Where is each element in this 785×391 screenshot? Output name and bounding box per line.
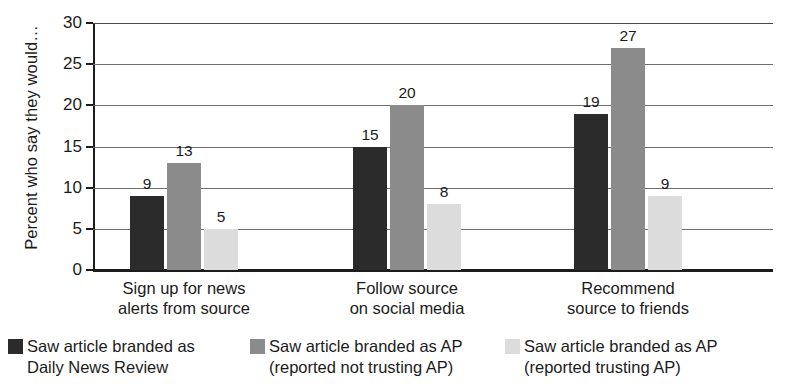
- y-axis-title: Percent who say they would…: [22, 8, 41, 268]
- bar: 13: [167, 163, 201, 270]
- legend-item[interactable]: Saw article branded as Daily News Review: [8, 336, 195, 378]
- plot-area: 302520151050 91351520819279: [93, 23, 773, 270]
- y-axis-tick-label: 5: [73, 219, 82, 239]
- bar: 5: [204, 229, 238, 270]
- y-axis-tick-mark: [86, 104, 93, 106]
- y-axis-tick-mark: [86, 63, 93, 65]
- bar: 15: [353, 147, 387, 271]
- y-axis-tick-label: 15: [63, 137, 82, 157]
- bar-value-label: 15: [361, 126, 378, 144]
- bar-value-label: 9: [143, 175, 152, 193]
- y-axis-tick-mark: [86, 22, 93, 24]
- bar: 9: [130, 196, 164, 270]
- gridline: [93, 64, 773, 65]
- bar: 27: [611, 48, 645, 270]
- bar: 9: [648, 196, 682, 270]
- legend-item[interactable]: Saw article branded as AP (reported trus…: [505, 336, 718, 378]
- bar-value-label: 8: [440, 183, 449, 201]
- bar: 20: [390, 105, 424, 270]
- y-axis-tick-label: 10: [63, 178, 82, 198]
- y-axis-tick-label: 30: [63, 13, 82, 33]
- category-label-line: Follow source: [297, 278, 517, 298]
- bar-value-label: 13: [175, 142, 192, 160]
- y-axis-tick-mark: [86, 146, 93, 148]
- x-axis-category-label: Sign up for newsalerts from source: [74, 278, 294, 318]
- bar-value-label: 9: [661, 175, 670, 193]
- x-axis-category-label: Recommendsource to friends: [518, 278, 738, 318]
- y-axis-tick-label: 25: [63, 54, 82, 74]
- gridline: [93, 23, 773, 24]
- legend-swatch-icon: [8, 339, 23, 354]
- category-label-line: alerts from source: [74, 298, 294, 318]
- x-axis-category-label: Follow sourceon social media: [297, 278, 517, 318]
- bar-chart: Percent who say they would… 302520151050…: [0, 0, 785, 391]
- bar: 8: [427, 204, 461, 270]
- category-label-line: source to friends: [518, 298, 738, 318]
- bar-value-label: 27: [619, 27, 636, 45]
- bar: 19: [574, 114, 608, 270]
- legend-swatch-icon: [505, 339, 520, 354]
- y-axis-tick-mark: [86, 187, 93, 189]
- y-axis-tick-label: 0: [73, 260, 82, 280]
- gridline: [93, 105, 773, 106]
- y-axis-tick-label: 20: [63, 95, 82, 115]
- chart-legend: Saw article branded as Daily News Review…: [0, 336, 785, 391]
- y-axis-tick-mark: [86, 228, 93, 230]
- bar-value-label: 20: [398, 84, 415, 102]
- legend-swatch-icon: [250, 339, 265, 354]
- legend-item[interactable]: Saw article branded as AP (reported not …: [250, 336, 463, 378]
- gridline: [93, 147, 773, 148]
- category-label-line: Recommend: [518, 278, 738, 298]
- category-label-line: on social media: [297, 298, 517, 318]
- legend-label: Saw article branded as AP (reported trus…: [524, 336, 718, 378]
- bar-value-label: 19: [582, 93, 599, 111]
- y-axis-tick-mark: [86, 269, 93, 271]
- legend-label: Saw article branded as AP (reported not …: [269, 336, 463, 378]
- legend-label: Saw article branded as Daily News Review: [27, 336, 195, 378]
- bar-value-label: 5: [217, 208, 226, 226]
- category-label-line: Sign up for news: [74, 278, 294, 298]
